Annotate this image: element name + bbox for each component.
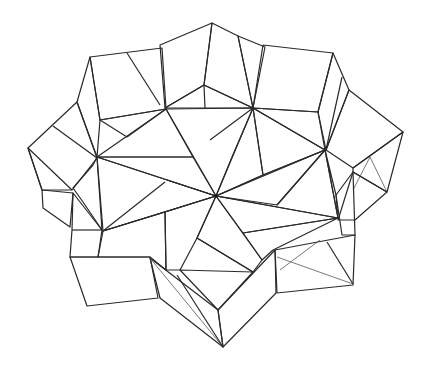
gap-top-left [100, 109, 166, 137]
bottom-left-unit-face [70, 257, 158, 306]
origami-polyhedron-figure [0, 0, 431, 377]
top-unit-right-face [204, 23, 253, 108]
polyhedron-drawing [0, 0, 431, 377]
pin-face-9 [197, 196, 262, 272]
bottom-v-crease [177, 275, 223, 347]
left-unit-face [28, 102, 97, 190]
pin-face-13 [97, 157, 216, 231]
pin-face-4 [216, 108, 263, 196]
pin-face-12 [98, 212, 166, 270]
right-strip [338, 172, 387, 220]
bottom-v-right-face [218, 250, 276, 347]
top-left-unit-face [90, 48, 166, 120]
outer-ring-units [28, 23, 403, 347]
pin-face-10 [165, 196, 216, 270]
right-narrow-strip [336, 172, 355, 235]
pin-face-6 [216, 150, 338, 218]
pin-line-13 [103, 182, 165, 231]
br-diag-1 [277, 257, 353, 284]
inner-gaps [73, 85, 338, 310]
top-unit-side-face [238, 36, 265, 108]
pin-line-9 [197, 238, 253, 272]
top-left-unit-side [77, 57, 100, 157]
gap-top [165, 85, 253, 108]
center-vertex [215, 195, 218, 198]
left-crease [53, 126, 97, 158]
top-left-crease [127, 53, 160, 105]
right-unit-face [326, 90, 403, 168]
right-unit-lower [353, 132, 403, 192]
gap-top-line [204, 85, 205, 108]
pin-face-3 [166, 108, 253, 196]
left-unit-lower [28, 148, 73, 227]
br-crease-1 [327, 242, 353, 284]
bottom-left-narrow [70, 193, 102, 257]
pin-face-1 [97, 109, 193, 157]
